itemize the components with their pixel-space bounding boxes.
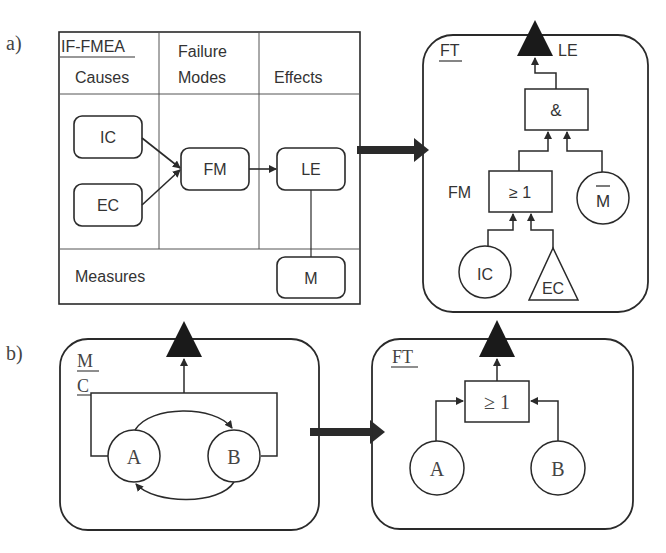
top-event-label: LE xyxy=(558,42,578,59)
model-frame xyxy=(60,339,319,530)
fault-tree-b-title: FT xyxy=(392,347,413,367)
node-fm-label: FM xyxy=(203,161,226,178)
or-gate-fm-label: FM xyxy=(448,184,471,201)
model-node-b-label: B xyxy=(227,446,240,468)
ft-b-node-a-label: A xyxy=(430,458,445,480)
node-m-label: M xyxy=(304,270,317,287)
node-ec-label: EC xyxy=(97,197,119,214)
undeveloped-event-ec-label: EC xyxy=(542,280,564,297)
model-b: M C A B xyxy=(60,321,319,530)
edge-ic-or xyxy=(488,214,513,246)
edge-b-or-b xyxy=(531,401,558,441)
edge-mbar-and xyxy=(567,132,602,172)
and-gate-label: & xyxy=(550,101,562,120)
edge-or-and xyxy=(519,132,548,171)
measure-negated-label: M xyxy=(596,192,610,211)
measures-label: Measures xyxy=(75,268,145,285)
edge-ec-or xyxy=(531,214,553,248)
ft-b-node-b-label: B xyxy=(551,458,564,480)
edge-a-to-b xyxy=(135,411,232,430)
top-event-triangle-icon xyxy=(517,20,553,56)
model-title-m: M xyxy=(77,351,93,371)
node-le-label: LE xyxy=(301,161,321,178)
diagram-canvas: a) IF-FMEA Causes Failure Modes Effects … xyxy=(0,0,666,553)
transform-arrow-b xyxy=(310,420,385,444)
edge-and-top xyxy=(535,58,556,89)
col-header-causes: Causes xyxy=(75,69,129,86)
edge-a-or-b xyxy=(436,401,463,441)
panel-b-label: b) xyxy=(6,342,23,365)
edge-ic-fm xyxy=(142,138,180,168)
fault-tree-a-frame xyxy=(423,35,648,312)
fault-tree-a: FT LE & FM ≥ 1 M IC EC xyxy=(423,20,648,312)
col-header-failure: Failure xyxy=(178,43,227,60)
fmea-table: IF-FMEA Causes Failure Modes Effects Mea… xyxy=(59,32,360,304)
col-header-modes: Modes xyxy=(178,69,226,86)
panel-a-label: a) xyxy=(6,32,22,55)
col-header-effects: Effects xyxy=(274,69,323,86)
model-bracket xyxy=(91,393,277,456)
fault-tree-a-title: FT xyxy=(440,42,460,59)
or-gate-label: ≥ 1 xyxy=(509,184,531,201)
edge-ec-fm xyxy=(142,170,180,205)
fault-tree-b: FT ≥ 1 A B xyxy=(372,320,633,529)
edge-b-to-a xyxy=(136,482,234,500)
model-title-c: C xyxy=(77,376,89,396)
basic-event-ic-label: IC xyxy=(477,266,493,283)
transform-arrow-a xyxy=(357,138,429,162)
node-ic-label: IC xyxy=(100,129,116,146)
model-node-a-label: A xyxy=(127,446,142,468)
fmea-title: IF-FMEA xyxy=(61,38,125,55)
or-gate-b-label: ≥ 1 xyxy=(484,391,510,413)
